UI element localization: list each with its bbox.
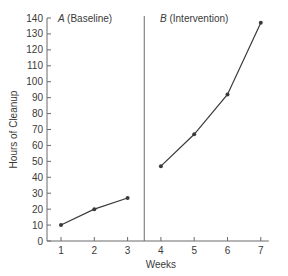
y-tick-label: 10 <box>32 220 44 231</box>
y-tick-label: 30 <box>32 188 44 199</box>
series-baseline <box>59 196 130 227</box>
x-tick-label: 7 <box>258 245 264 256</box>
y-tick-label: 20 <box>32 204 44 215</box>
x-tick-label: 1 <box>58 245 64 256</box>
x-axis-label: Weeks <box>146 259 176 270</box>
y-axis-label: Hours of Cleanup <box>8 90 19 168</box>
phase-label-a: A (Baseline) <box>57 13 112 24</box>
data-point <box>159 164 163 168</box>
x-axis-ticks: 1234567 <box>58 237 264 256</box>
y-tick-label: 70 <box>32 124 44 135</box>
series-line <box>61 198 128 225</box>
data-point <box>126 196 130 200</box>
phase-label-b: B (Intervention) <box>160 13 228 24</box>
x-tick-label: 4 <box>158 245 164 256</box>
x-tick-label: 3 <box>125 245 131 256</box>
data-point <box>59 223 63 227</box>
data-point <box>226 92 230 96</box>
y-tick-label: 60 <box>32 140 44 151</box>
data-point <box>92 207 96 211</box>
y-tick-label: 40 <box>32 172 44 183</box>
data-series <box>59 21 263 227</box>
y-tick-label: 130 <box>26 28 43 39</box>
y-tick-label: 90 <box>32 92 44 103</box>
y-tick-label: 100 <box>26 76 43 87</box>
data-point <box>192 132 196 136</box>
series-intervention <box>159 21 263 168</box>
y-tick-label: 110 <box>27 60 43 71</box>
x-tick-label: 6 <box>225 245 231 256</box>
phase-labels: A (Baseline)B (Intervention) <box>57 13 228 24</box>
y-tick-label: 80 <box>32 108 44 119</box>
ab-design-line-chart: 0102030405060708090100110120130140 12345… <box>0 0 288 276</box>
y-tick-label: 120 <box>26 44 43 55</box>
y-tick-label: 140 <box>26 13 43 24</box>
data-point <box>259 21 263 25</box>
x-tick-label: 5 <box>191 245 197 256</box>
y-tick-label: 50 <box>32 156 44 167</box>
y-tick-label: 0 <box>37 236 43 247</box>
x-tick-label: 2 <box>92 245 98 256</box>
series-line <box>161 23 261 166</box>
